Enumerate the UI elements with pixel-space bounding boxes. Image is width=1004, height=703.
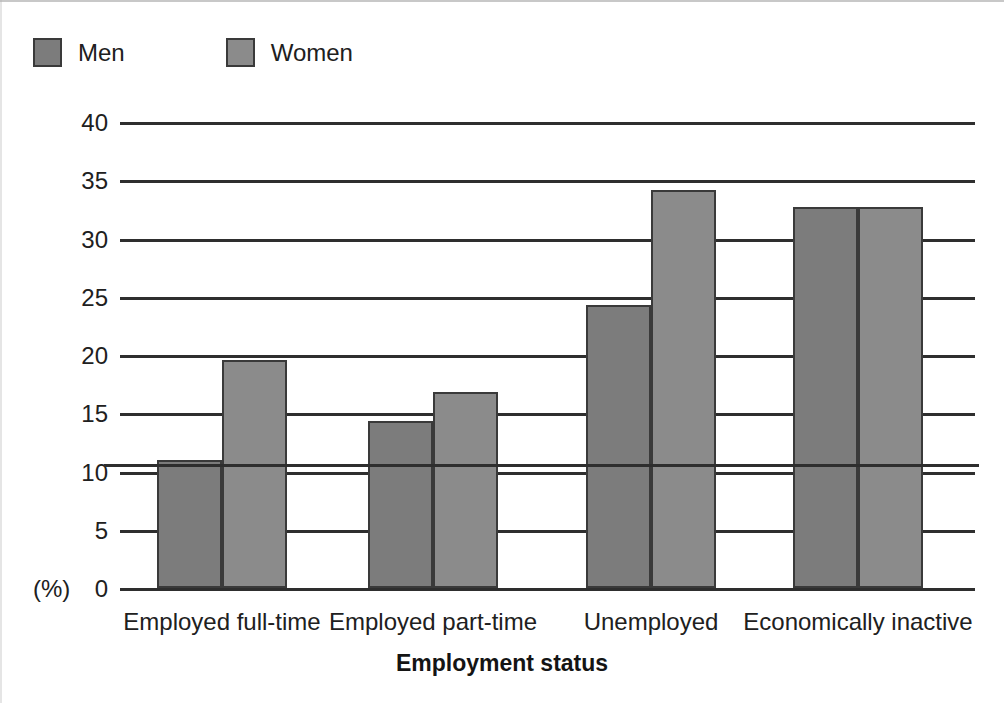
bar-women-3 bbox=[858, 207, 923, 588]
plot-area bbox=[120, 123, 975, 589]
bar-women-1 bbox=[433, 392, 498, 588]
y-tick-label-40: 40 bbox=[62, 111, 108, 135]
category-label-0: Employed full-time bbox=[123, 608, 320, 637]
bar-men-3 bbox=[793, 207, 858, 588]
x-axis-baseline bbox=[104, 464, 979, 467]
x-axis-title: Employment status bbox=[0, 650, 1004, 677]
bar-men-1 bbox=[368, 421, 433, 588]
category-label-2: Unemployed bbox=[584, 608, 719, 637]
y-tick-label-20: 20 bbox=[62, 344, 108, 368]
x-axis-category-labels: Employed full-timeEmployed part-timeUnem… bbox=[120, 608, 975, 642]
bars-layer bbox=[120, 123, 975, 589]
y-tick-label-15: 15 bbox=[62, 402, 108, 426]
y-tick-label-5: 5 bbox=[62, 519, 108, 543]
y-tick-label-35: 35 bbox=[62, 169, 108, 193]
bar-women-2 bbox=[651, 190, 716, 588]
y-tick-label-30: 30 bbox=[62, 228, 108, 252]
bar-men-0 bbox=[157, 460, 222, 588]
bar-chart-figure: Men Women 4035302520151050 (%) Employed … bbox=[0, 0, 1004, 703]
y-tick-label-10: 10 bbox=[62, 461, 108, 485]
category-label-1: Employed part-time bbox=[329, 608, 537, 637]
y-axis-unit-label: (%) bbox=[33, 577, 70, 601]
bar-women-0 bbox=[222, 360, 287, 588]
bar-men-2 bbox=[586, 305, 651, 588]
category-label-3: Economically inactive bbox=[743, 608, 972, 637]
y-tick-label-25: 25 bbox=[62, 286, 108, 310]
